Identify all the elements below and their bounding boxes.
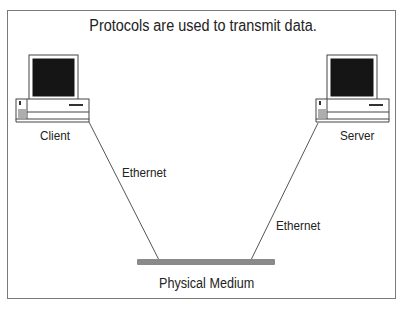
server-computer-icon — [316, 55, 389, 122]
server-link-label: Ethernet — [276, 218, 320, 233]
physical-medium-bar — [137, 259, 275, 265]
client-link-label: Ethernet — [122, 165, 166, 180]
server-label: Server — [340, 128, 374, 143]
network-diagram — [0, 0, 406, 310]
server-ethernet-link — [250, 123, 318, 262]
client-label: Client — [40, 128, 70, 143]
client-ethernet-link — [89, 122, 160, 262]
physical-medium-label: Physical Medium — [159, 275, 254, 291]
client-computer-icon — [16, 55, 89, 122]
